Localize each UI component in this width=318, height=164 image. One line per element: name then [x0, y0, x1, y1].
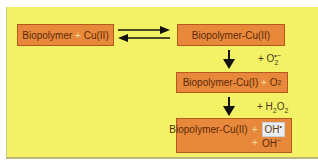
reagent-hydrogen-peroxide: + H2O2: [257, 101, 288, 114]
plus-sign: +: [75, 30, 81, 41]
arrow-down-icon: [223, 97, 235, 116]
hydroxyl-radical: OH•: [262, 122, 285, 136]
reactant-copper: Cu(II): [84, 30, 109, 41]
node-reactants: Biopolymer + Cu(II): [17, 24, 114, 46]
arrow-down-icon: [223, 50, 235, 69]
hydroxide-ion: OH−: [262, 137, 281, 149]
node-complex: Biopolymer-Cu(II): [177, 24, 285, 46]
node-reduced: Biopolymer-Cu(I) + O2: [176, 72, 288, 93]
product-row-1: Biopolymer-Cu(II) + OH•: [169, 122, 285, 136]
reactant-biopolymer: Biopolymer: [22, 30, 72, 41]
reagent-superoxide: + O2•−: [258, 52, 281, 66]
equilibrium-arrows-icon: [118, 26, 170, 42]
product-row-2: + OH−: [252, 137, 281, 149]
node-product: Biopolymer-Cu(II) + OH• + OH−: [176, 118, 292, 153]
complex-label: Biopolymer-Cu(II): [192, 30, 270, 41]
